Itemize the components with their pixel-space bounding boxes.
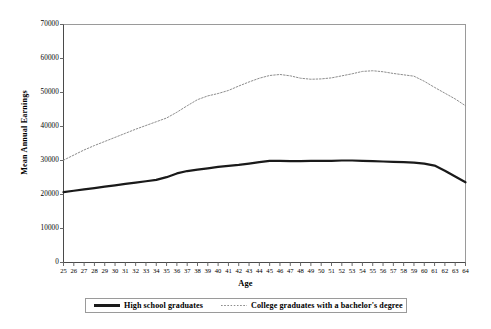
legend-swatch-solid-line-icon — [94, 301, 120, 310]
series-line-high-school-graduates — [64, 161, 466, 193]
legend-item-college-graduates: College graduates with a bachelor's degr… — [221, 299, 403, 312]
y-axis-tick-label: 20000 — [8, 191, 59, 198]
y-axis-tick-label: 30000 — [8, 157, 59, 164]
x-axis-title: Age — [0, 279, 491, 288]
y-axis-title: Mean Annual Earnings — [20, 63, 29, 203]
y-axis-tick-label: 60000 — [8, 55, 59, 62]
series-line-college-graduates — [64, 71, 466, 160]
y-axis-tick-label: 70000 — [8, 21, 59, 28]
legend-label-college-graduates: College graduates with a bachelor's degr… — [251, 301, 403, 310]
legend-item-high-school-graduates: High school graduates — [94, 299, 203, 312]
chart-legend: High school graduates College graduates … — [85, 298, 407, 313]
x-axis-tick-label: 64 — [459, 268, 473, 275]
legend-swatch-dotted-line-icon — [221, 301, 247, 310]
y-axis-tick-label: 0 — [8, 259, 59, 266]
y-axis-tick-label: 50000 — [8, 89, 59, 96]
earnings-by-age-chart: 010000200003000040000500006000070000 252… — [0, 0, 491, 329]
legend-label-high-school-graduates: High school graduates — [124, 301, 203, 310]
plot-frame — [64, 25, 466, 263]
y-axis-tick-label: 10000 — [8, 225, 59, 232]
y-axis-tick-label: 40000 — [8, 123, 59, 130]
